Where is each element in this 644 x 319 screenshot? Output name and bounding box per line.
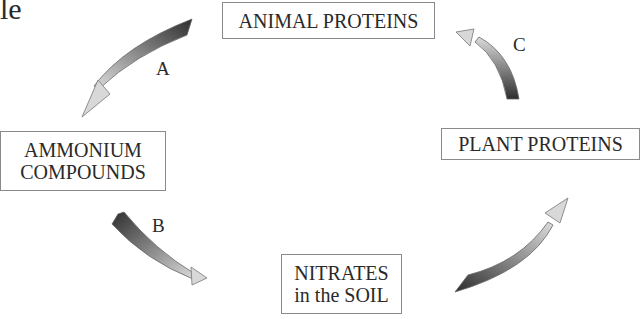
node-animal-proteins: ANIMAL PROTEINS: [222, 2, 435, 39]
node-nitrates-line1: NITRATES: [282, 262, 401, 284]
node-ammonium-line2: COMPOUNDS: [1, 161, 165, 183]
arrow-c-icon: [456, 29, 519, 99]
arrow-c-label: C: [513, 34, 526, 56]
node-plant-text: PLANT PROTEINS: [442, 133, 639, 155]
node-nitrates-soil: NITRATES in the SOIL: [281, 254, 402, 314]
arrow-d-icon: [455, 198, 568, 292]
arrow-a-label: A: [156, 58, 170, 80]
node-nitrates-line2: in the SOIL: [282, 284, 401, 306]
node-plant-proteins: PLANT PROTEINS: [441, 128, 640, 160]
node-ammonium-line1: AMMONIUM: [1, 139, 165, 161]
node-ammonium-compounds: AMMONIUM COMPOUNDS: [0, 131, 166, 191]
node-animal-text: ANIMAL PROTEINS: [223, 10, 434, 32]
arrow-a-icon: [82, 19, 192, 117]
arrow-b-label: B: [152, 215, 165, 237]
